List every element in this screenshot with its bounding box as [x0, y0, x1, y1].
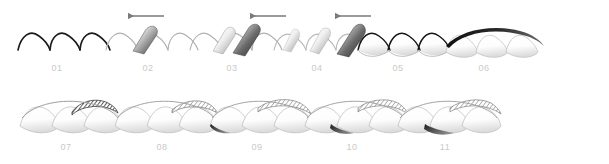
panel-10 [305, 100, 408, 134]
panel-label-05: 05 [378, 63, 418, 73]
panel-11 [398, 100, 501, 135]
panel-label-09: 09 [237, 142, 277, 152]
shell [20, 107, 59, 133]
shell [242, 107, 281, 133]
shell [115, 107, 154, 133]
shell [476, 35, 508, 57]
panel-01 [18, 33, 110, 50]
shell [337, 107, 376, 133]
panel-05 [358, 33, 450, 56]
panel-02 [106, 16, 198, 54]
panel-label-08: 08 [142, 142, 182, 152]
panel-07-shells [20, 107, 123, 133]
panel-label-01: 01 [37, 63, 77, 73]
panel-02-flap-1 [133, 26, 157, 54]
panel-08 [115, 101, 218, 133]
panel-04 [274, 16, 371, 57]
shell [52, 107, 91, 133]
shell [418, 33, 450, 55]
panel-label-10: 10 [332, 142, 372, 152]
panel-01-arcs [18, 33, 110, 50]
panel-11-shells [398, 107, 501, 133]
panel-label-06: 06 [464, 63, 504, 73]
shell [147, 107, 186, 133]
figure-canvas [0, 0, 609, 164]
panel-03 [190, 16, 286, 56]
panel-label-11: 11 [425, 142, 465, 152]
panel-09-shells [210, 107, 313, 133]
panel-05-shells [358, 33, 450, 55]
panel-07 [20, 100, 123, 133]
panel-03-flap-2 [233, 24, 260, 56]
sequence-figure: 01 02 03 04 05 06 07 08 09 10 11 [0, 0, 609, 164]
panel-09 [210, 100, 313, 134]
shell [462, 107, 501, 133]
panel-04-flap-2 [310, 28, 331, 54]
panel-03-arcs [190, 33, 282, 50]
panel-06 [446, 28, 544, 57]
shell [430, 107, 469, 133]
panel-label-04: 04 [297, 63, 337, 73]
shell [446, 35, 478, 57]
panel-04-flap-1 [283, 29, 300, 52]
shell [388, 33, 420, 55]
panel-10-shells [305, 107, 408, 133]
panel-08-shells [115, 107, 218, 133]
panel-label-07: 07 [46, 142, 86, 152]
panel-label-02: 02 [128, 63, 168, 73]
panel-label-03: 03 [212, 63, 252, 73]
